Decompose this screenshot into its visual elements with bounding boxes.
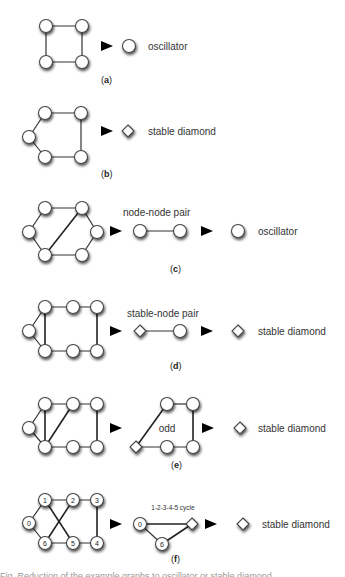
node-number: 2 — [71, 497, 75, 504]
panel-label-a: (a) — [101, 75, 112, 85]
node-icon — [23, 131, 36, 144]
intermediate-label-d: stable-node pair — [127, 308, 199, 319]
node-number: 4 — [95, 540, 99, 547]
result-label-c: oscillator — [258, 226, 298, 237]
arrow-icon — [101, 41, 113, 51]
result-label-a: oscillator — [148, 41, 188, 52]
arrow-icon — [101, 126, 113, 136]
graph-e-edges — [29, 404, 97, 447]
intermediate-label-e: odd — [159, 423, 176, 434]
panel-a: oscillator (a) — [40, 20, 189, 86]
stable-diamond-icon — [237, 518, 249, 530]
node-icon — [91, 226, 104, 239]
intermediate-label-c: node-node pair — [123, 207, 191, 218]
node-icon — [40, 20, 53, 33]
node-number: 1 — [43, 497, 47, 504]
graph-b-nodes — [23, 107, 88, 164]
node-icon — [76, 202, 89, 215]
node-number: 3 — [95, 497, 99, 504]
node-icon — [91, 301, 104, 314]
node-icon — [67, 398, 80, 411]
node-number: 6 — [43, 540, 47, 547]
stable-diamond-icon — [134, 325, 146, 337]
node-icon — [174, 225, 187, 238]
stable-diamond-icon — [232, 325, 244, 337]
node-number: 5 — [71, 540, 75, 547]
graph-c-edges — [29, 208, 97, 255]
node-icon — [91, 398, 104, 411]
panel-e: odd stable diamond (e) — [23, 398, 326, 471]
panel-d: stable-node pair stable diamond (d) — [23, 301, 326, 372]
node-icon — [76, 56, 89, 69]
node-icon — [161, 441, 174, 454]
node-icon — [39, 249, 52, 262]
node-icon — [23, 226, 36, 239]
arrow-icon — [110, 423, 122, 433]
node-icon — [39, 398, 52, 411]
node-number: 0 — [138, 521, 142, 528]
arrow-icon — [201, 226, 213, 236]
node-icon — [91, 441, 104, 454]
arrow-icon — [110, 519, 122, 529]
node-icon — [39, 202, 52, 215]
graph-a-nodes — [40, 20, 89, 69]
arrow-icon — [201, 326, 213, 336]
stable-diamond-icon — [130, 441, 142, 453]
arrow-icon — [205, 519, 217, 529]
panel-label-b: (b) — [101, 169, 113, 179]
graph-f-reduced-nodes — [134, 518, 199, 551]
panel-label-c: (c) — [170, 264, 181, 274]
panel-f: 0 1 2 3 4 5 6 1-2-3-4-5 cycle 0 6 stable… — [23, 494, 330, 565]
graph-e-nodes — [23, 398, 104, 454]
oscillator-node-icon — [123, 40, 136, 53]
graph-d-nodes — [23, 301, 104, 358]
intermediate-label-f: 1-2-3-4-5 cycle — [151, 504, 195, 512]
node-icon — [67, 301, 80, 314]
graph-f-edges — [29, 500, 97, 543]
node-icon — [161, 398, 174, 411]
node-icon — [174, 325, 187, 338]
node-number: 6 — [160, 541, 164, 548]
node-icon — [39, 151, 52, 164]
node-icon — [67, 345, 80, 358]
node-icon — [39, 441, 52, 454]
oscillator-node-icon — [232, 225, 245, 238]
arrow-icon — [110, 326, 122, 336]
node-icon — [91, 345, 104, 358]
node-icon — [23, 422, 36, 435]
panel-label-f: (f) — [171, 554, 180, 564]
node-icon — [187, 441, 200, 454]
node-icon — [75, 151, 88, 164]
node-icon — [67, 441, 80, 454]
graph-f-node-numbers: 0 1 2 3 4 5 6 — [27, 497, 99, 547]
panel-b: stable diamond (b) — [23, 107, 216, 180]
node-icon — [40, 56, 53, 69]
panel-c: node-node pair oscillator (c) — [23, 202, 299, 275]
graph-a-edges — [46, 26, 82, 62]
node-number: 0 — [27, 520, 31, 527]
node-icon — [39, 107, 52, 120]
figure-canvas: oscillator (a) stable diamond (b) — [0, 0, 345, 577]
node-icon — [39, 301, 52, 314]
result-label-e: stable diamond — [258, 423, 326, 434]
stable-diamond-icon — [186, 518, 198, 530]
node-icon — [76, 249, 89, 262]
result-label-d: stable diamond — [258, 326, 326, 337]
node-icon — [134, 225, 147, 238]
panel-label-e: (e) — [171, 460, 182, 470]
arrow-icon — [110, 226, 122, 236]
graph-f-nodes — [23, 494, 104, 550]
arrow-icon — [202, 423, 214, 433]
node-icon — [75, 107, 88, 120]
stable-diamond-icon — [122, 125, 134, 137]
figure-caption-cut-off: Fig. Reduction of the example graphs to … — [0, 569, 345, 577]
stable-diamond-icon — [234, 422, 246, 434]
graph-b-edges — [29, 113, 81, 157]
graph-d-edges — [29, 307, 97, 351]
node-icon — [23, 325, 36, 338]
panel-label-d: (d) — [170, 361, 182, 371]
node-icon — [39, 345, 52, 358]
result-label-b: stable diamond — [148, 126, 216, 137]
node-icon — [76, 20, 89, 33]
node-icon — [187, 398, 200, 411]
